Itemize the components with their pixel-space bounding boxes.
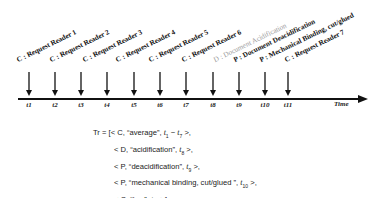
- tick-t6: t6: [157, 101, 162, 109]
- tick-t3: t3: [78, 101, 83, 109]
- tick-t2: t2: [52, 101, 57, 109]
- formula-row-3: < P, “deacidification”, t9 >,: [93, 160, 257, 177]
- time-axis-label: Time: [334, 100, 349, 108]
- tick-t4: t4: [104, 101, 109, 109]
- formula-row-4: < P, “mechanical binding, cut/glued ”, t…: [93, 176, 257, 193]
- trace-formula: Tr = [< C, “average”, t1 − t7 >, < D, “a…: [93, 126, 257, 198]
- tick-t10: t10: [261, 101, 270, 109]
- formula-row-5: < C, “low”, t11 >]: [93, 193, 257, 198]
- tick-t5: t5: [131, 101, 136, 109]
- time-axis-arrowhead-icon: [358, 95, 368, 103]
- timeline-diagram: C : Request Reader 1 C : Request Reader …: [0, 0, 384, 198]
- tick-t11: t11: [284, 101, 293, 109]
- tick-t7: t7: [183, 101, 188, 109]
- tick-t9: t9: [236, 101, 241, 109]
- event-arrows: [26, 72, 291, 96]
- formula-row-2: < D, “acidification”, t8 >,: [93, 143, 257, 160]
- formula-row-1: Tr = [< C, “average”, t1 − t7 >,: [93, 126, 257, 143]
- tick-t1: t1: [26, 101, 31, 109]
- tick-t8: t8: [210, 101, 215, 109]
